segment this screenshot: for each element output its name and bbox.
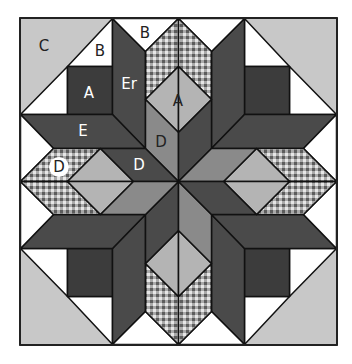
- piece-label-D-checked: D: [53, 158, 65, 176]
- piece-label-C: C: [39, 37, 49, 55]
- piece-label-D-inner: D: [155, 133, 167, 151]
- piece-label-D-dark: D: [133, 156, 145, 174]
- piece-label-A-diamond: A: [173, 92, 184, 110]
- piece-label-E: E: [78, 122, 87, 140]
- quilt-block-diagram: CBBAErAEDDD: [0, 0, 352, 364]
- corner-square-a-q3: [245, 249, 290, 297]
- piece-label-B-top: B: [140, 24, 150, 42]
- piece-label-Er: Er: [121, 75, 137, 93]
- corner-square-a-q2: [68, 249, 113, 297]
- corner-square-a-q1: [245, 67, 290, 115]
- piece-label-B-corner: B: [95, 42, 105, 60]
- piece-label-A-square: A: [84, 84, 95, 102]
